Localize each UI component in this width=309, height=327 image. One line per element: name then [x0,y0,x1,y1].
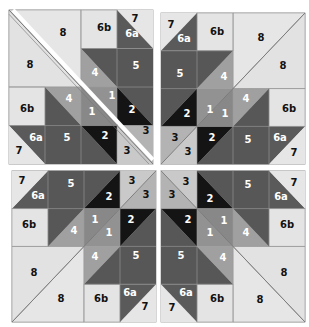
svg-text:5: 5 [245,134,252,145]
svg-text:1: 1 [106,227,113,238]
svg-text:3: 3 [129,175,136,186]
svg-text:4: 4 [220,252,227,263]
svg-text:4: 4 [92,67,99,78]
svg-text:2: 2 [128,214,135,225]
svg-text:7: 7 [142,301,149,312]
svg-text:6a: 6a [31,190,45,201]
svg-text:1: 1 [109,90,116,101]
svg-text:8: 8 [60,27,67,38]
svg-text:6a: 6a [123,287,137,298]
quilt-diagram: 8 8 6b 7 6a 4 5 1 1 2 3 3 6b 6a 7 4 5 2 … [0,0,309,327]
svg-text:6b: 6b [97,22,111,33]
svg-text:4: 4 [221,71,228,82]
svg-text:2: 2 [185,214,192,225]
svg-text:2: 2 [129,104,136,115]
svg-text:6a: 6a [29,132,43,143]
svg-text:7: 7 [19,175,26,186]
svg-text:2: 2 [106,191,113,202]
svg-text:2: 2 [207,193,214,204]
svg-text:3: 3 [124,145,131,156]
svg-text:6b: 6b [210,26,224,37]
svg-text:4: 4 [66,93,73,104]
svg-text:8: 8 [27,59,34,70]
svg-text:4: 4 [71,225,78,236]
svg-text:7: 7 [168,19,175,30]
svg-text:1: 1 [207,227,214,238]
svg-text:6b: 6b [210,293,224,304]
svg-text:6a: 6a [177,33,191,44]
svg-text:3: 3 [143,125,150,136]
svg-text:1: 1 [207,104,214,115]
svg-text:7: 7 [291,147,298,158]
svg-text:3: 3 [169,189,176,200]
svg-text:8: 8 [257,294,264,305]
svg-text:5: 5 [64,132,71,143]
svg-text:4: 4 [243,227,250,238]
svg-text:7: 7 [169,302,176,313]
svg-text:8: 8 [280,60,287,71]
svg-text:8: 8 [258,32,265,43]
svg-text:7: 7 [16,145,23,156]
svg-text:1: 1 [89,106,96,117]
svg-text:4: 4 [92,251,99,262]
svg-text:7: 7 [132,13,139,24]
svg-text:6b: 6b [20,103,34,114]
svg-text:3: 3 [172,132,179,143]
svg-text:2: 2 [102,130,109,141]
svg-text:6b: 6b [282,103,296,114]
svg-text:3: 3 [183,176,190,187]
svg-text:6b: 6b [94,293,108,304]
svg-text:4: 4 [243,93,250,104]
svg-text:5: 5 [68,178,75,189]
svg-text:2: 2 [184,108,191,119]
svg-text:5: 5 [133,250,140,261]
svg-text:6a: 6a [274,191,288,202]
svg-text:6a: 6a [179,287,193,298]
svg-text:1: 1 [221,215,228,226]
svg-text:2: 2 [209,132,216,143]
svg-text:5: 5 [133,60,140,71]
svg-text:3: 3 [143,189,150,200]
svg-text:6a: 6a [273,132,287,143]
svg-text:8: 8 [281,267,288,278]
svg-text:1: 1 [222,108,229,119]
svg-text:5: 5 [178,250,185,261]
svg-text:5: 5 [245,179,252,190]
svg-text:6a: 6a [125,28,139,39]
svg-text:8: 8 [31,267,38,278]
svg-text:5: 5 [177,68,184,79]
svg-text:8: 8 [58,293,65,304]
svg-text:6b: 6b [22,219,36,230]
svg-text:6b: 6b [280,219,294,230]
svg-text:7: 7 [291,177,298,188]
svg-text:3: 3 [185,146,192,157]
svg-text:1: 1 [92,214,99,225]
